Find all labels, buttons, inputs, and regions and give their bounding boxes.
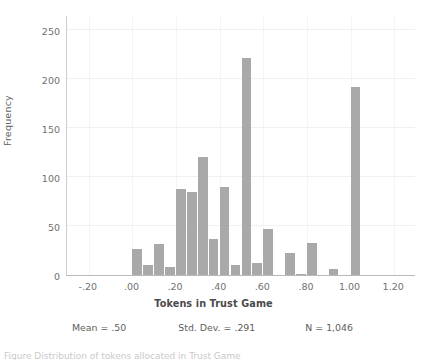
histogram-bar <box>296 274 306 275</box>
stats-row: Mean = .50 Std. Dev. = .291 N = 1,046 <box>0 322 427 333</box>
plot-area <box>66 16 415 276</box>
figure-caption: Figure Distribution of tokens allocated … <box>4 351 427 360</box>
x-axis-title: Tokens in Trust Game <box>0 298 427 309</box>
y-axis-tick-label: 150 <box>22 123 60 134</box>
stat-mean: Mean = .50 <box>72 322 126 333</box>
histogram-bar <box>351 87 361 275</box>
histogram-bar <box>285 253 295 275</box>
y-axis-tick-label: 250 <box>22 25 60 36</box>
histogram-bar <box>263 229 273 275</box>
stat-n: N = 1,046 <box>305 322 353 333</box>
histogram-bar <box>329 269 339 275</box>
stat-std-dev: Std. Dev. = .291 <box>178 322 255 333</box>
x-axis-tick-label: 1.20 <box>383 281 404 292</box>
x-axis-tick-label: .80 <box>298 281 313 292</box>
histogram-bar <box>198 157 208 275</box>
y-axis-tick-label: 50 <box>22 221 60 232</box>
histogram-figure: Frequency 050100150200250 -.20.00.20.40.… <box>0 0 427 360</box>
histogram-bar <box>187 192 197 275</box>
histogram-bar <box>143 265 153 275</box>
histogram-bar <box>307 243 317 275</box>
x-axis-tick-label: .00 <box>124 281 139 292</box>
histogram-bar <box>252 263 262 275</box>
x-axis-tick-label: .60 <box>255 281 270 292</box>
y-axis-tick-label: 100 <box>22 172 60 183</box>
histogram-bar <box>154 244 164 275</box>
y-axis-tick-label: 200 <box>22 74 60 85</box>
y-axis-tick-label: 0 <box>22 271 60 282</box>
histogram-bar <box>176 189 186 275</box>
x-axis-tick-label: 1.00 <box>339 281 360 292</box>
histogram-bar <box>209 239 219 275</box>
x-axis-tick-label: -.20 <box>79 281 98 292</box>
histogram-bar <box>165 267 175 275</box>
x-axis-tick-label: .40 <box>211 281 226 292</box>
histogram-bar <box>132 249 142 275</box>
x-axis-tick-label: .20 <box>168 281 183 292</box>
histogram-bar <box>242 58 252 275</box>
histogram-bar <box>220 187 230 275</box>
histogram-bars <box>67 16 415 275</box>
histogram-bar <box>231 265 241 275</box>
